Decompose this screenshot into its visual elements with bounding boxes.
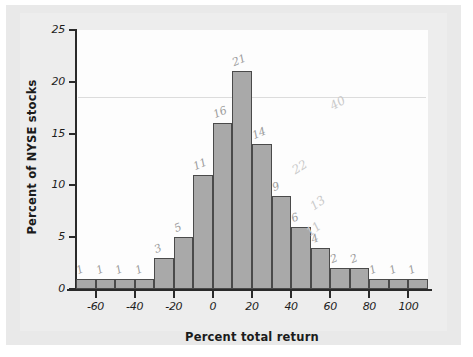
x-tick-label-80: 80	[349, 300, 389, 313]
y-tick-5	[69, 236, 77, 238]
bar-30	[272, 196, 292, 289]
x-tick-label-60: 60	[310, 300, 350, 313]
bar--20	[174, 237, 194, 289]
y-tick-label-10: 10	[41, 178, 65, 191]
x-tick-100	[407, 291, 409, 298]
y-tick-label-0: 0	[41, 282, 65, 295]
x-tick--40	[134, 291, 136, 298]
x-tick-20	[251, 291, 253, 298]
bar--70	[76, 279, 96, 289]
bar-90	[389, 279, 409, 289]
bar-40	[291, 227, 311, 289]
x-tick-60	[329, 291, 331, 298]
y-tick-20	[69, 81, 77, 83]
x-tick--20	[173, 291, 175, 298]
x-tick-label--40: -40	[115, 300, 155, 313]
histogram-figure: 0510152025 -60-40-20020406080100 1111351…	[0, 0, 473, 357]
bar-70	[350, 268, 370, 289]
y-axis-title: Percent of NYSE stocks	[25, 57, 39, 257]
y-axis-line	[75, 29, 77, 290]
bar-100	[408, 279, 428, 289]
y-tick-label-20: 20	[41, 75, 65, 88]
x-tick-80	[368, 291, 370, 298]
bar--60	[96, 279, 116, 289]
x-tick-label--60: -60	[76, 300, 116, 313]
scan-crease	[78, 97, 426, 98]
bar--30	[154, 258, 174, 289]
x-tick-label-20: 20	[232, 300, 272, 313]
x-tick-label--20: -20	[154, 300, 194, 313]
x-axis-title: Percent total return	[76, 330, 428, 344]
x-axis-line	[67, 289, 432, 291]
x-tick-40	[290, 291, 292, 298]
x-tick-label-40: 40	[271, 300, 311, 313]
y-tick-label-15: 15	[41, 127, 65, 140]
y-tick-label-25: 25	[41, 23, 65, 36]
bar--10	[193, 175, 213, 289]
bar-0	[213, 123, 233, 289]
bar--40	[135, 279, 155, 289]
y-tick-25	[69, 29, 77, 31]
x-tick--60	[95, 291, 97, 298]
x-tick-label-100: 100	[388, 300, 428, 313]
bar-60	[330, 268, 350, 289]
y-tick-label-5: 5	[41, 230, 65, 243]
bar--50	[115, 279, 135, 289]
bar-10	[232, 71, 252, 289]
x-tick-0	[212, 291, 214, 298]
y-tick-10	[69, 184, 77, 186]
y-tick-15	[69, 133, 77, 135]
bar-80	[369, 279, 389, 289]
bar-20	[252, 144, 272, 289]
x-tick-label-0: 0	[193, 300, 233, 313]
